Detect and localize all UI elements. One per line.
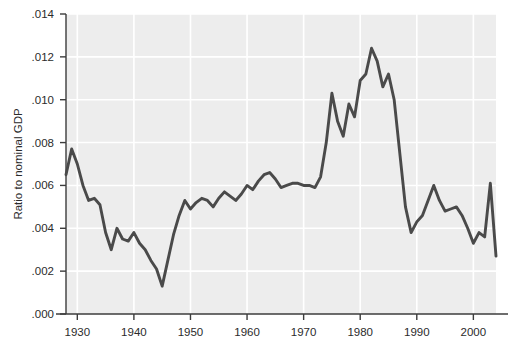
line-chart: .000.002.004.006.008.010.012.014 1930194… <box>0 0 512 349</box>
x-tick-label: 1960 <box>234 326 260 338</box>
y-tick-label: .010 <box>32 94 54 106</box>
x-tick-label: 1930 <box>65 326 91 338</box>
x-tick-label: 1980 <box>347 326 373 338</box>
y-tick-label: .006 <box>32 179 54 191</box>
x-tick-label: 1950 <box>178 326 204 338</box>
chart-figure: .000.002.004.006.008.010.012.014 1930194… <box>0 0 512 349</box>
y-tick-label: .008 <box>32 137 54 149</box>
y-axis-title: Ratio to nominal GDP <box>12 108 24 220</box>
x-tick-label: 1970 <box>291 326 317 338</box>
x-tick-label: 2000 <box>461 326 487 338</box>
y-tick-label: .004 <box>32 222 55 234</box>
plot-area-background <box>66 14 496 314</box>
x-tick-label: 1940 <box>121 326 147 338</box>
x-tick-label: 1990 <box>404 326 430 338</box>
y-tick-label: .000 <box>32 308 54 320</box>
y-tick-label: .012 <box>32 51 54 63</box>
y-tick-label: .002 <box>32 265 54 277</box>
y-tick-label: .014 <box>32 8 55 20</box>
